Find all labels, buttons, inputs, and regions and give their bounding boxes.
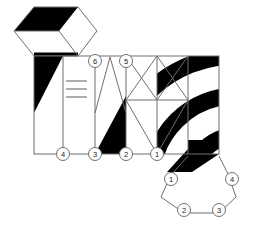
marker-label-elevation-bottom-4: 4 [61,150,65,159]
hatch-marks-group [66,81,87,97]
marker-label-elevation-bottom-1: 1 [155,150,159,159]
marker-label-lower-hexagon-3: 3 [217,206,221,215]
diagram-canvas: 6543211423 [0,0,256,230]
marker-label-elevation-top-5: 5 [124,57,128,66]
marker-label-elevation-bottom-3: 3 [93,150,97,159]
lower-hexagon-top-right-edge [219,156,228,174]
diagram-svg: 6543211423 [0,0,256,230]
upper-hexagon-group [14,7,97,56]
marker-label-lower-hexagon-1: 1 [169,175,173,184]
upper-hexagon-bottom-black-sliver [34,53,78,57]
left-bay-black-triangle [34,56,63,113]
marker-label-elevation-top-6: 6 [93,57,97,66]
marker-label-lower-hexagon-2: 2 [182,206,186,215]
upper-hexagon-inner-diagonal [59,31,78,56]
bay3-black-triangle [95,96,126,154]
marker-label-lower-hexagon-4: 4 [230,175,234,184]
arc-stripes-group [112,56,236,180]
marker-label-elevation-bottom-2: 2 [124,150,128,159]
